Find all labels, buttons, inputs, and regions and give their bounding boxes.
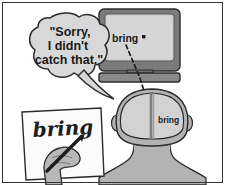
scene-illustration: bring bring <box>0 0 225 185</box>
speech-bubble-line-3: catch that." <box>35 53 104 67</box>
speech-bubble-line-1: "Sorry, <box>49 25 90 39</box>
handwritten-word: bring <box>32 115 94 142</box>
brain-word-text: bring <box>158 115 179 125</box>
text-cursor-icon <box>142 35 145 38</box>
speech-bubble-line-2: I didn't <box>48 39 89 53</box>
paper-with-handwriting: bring <box>22 108 104 180</box>
cartoon-panel: bring bring <box>0 0 225 185</box>
monitor-screen-text: bring <box>112 32 138 44</box>
computer-monitor: bring <box>99 9 180 82</box>
speech-bubble: "Sorry, I didn't catch that." <box>30 13 114 99</box>
person-back-of-head: bring <box>99 89 206 185</box>
